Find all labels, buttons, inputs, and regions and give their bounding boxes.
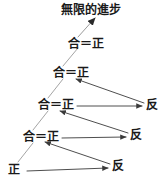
node-level-3: 合＝正 <box>38 99 74 111</box>
spiral-segment-2 <box>33 111 48 130</box>
spiral-segment-3 <box>48 79 63 98</box>
node-level-2: 合＝正 <box>23 131 59 143</box>
infinite-progress-arrow-group <box>78 18 95 37</box>
node-antithesis-3: 反 <box>146 99 158 111</box>
return-arrow-group <box>45 79 144 164</box>
node-antithesis-1: 反 <box>112 160 124 172</box>
arrow-antithesis-to-synthesis-1 <box>45 142 110 164</box>
arrow-thesis-to-antithesis-1 <box>27 168 108 171</box>
arrow-antithesis-to-synthesis-3 <box>76 79 144 103</box>
node-level-4: 合＝正 <box>53 67 89 79</box>
diagram-canvas <box>0 0 167 195</box>
spiral-segment-1 <box>18 143 33 162</box>
arrow-antithesis-to-synthesis-2 <box>60 111 128 133</box>
node-level-1: 正 <box>8 164 20 176</box>
arrow-infinite-progress <box>78 18 95 37</box>
dialectic-spiral-diagram: 無限的進步 正合＝正合＝正合＝正合＝正 反反反 <box>0 0 167 195</box>
node-antithesis-2: 反 <box>130 129 142 141</box>
diagram-title: 無限的進步 <box>61 4 121 16</box>
arrow-thesis-to-antithesis-2 <box>62 137 126 138</box>
node-level-5: 合＝正 <box>68 38 104 50</box>
